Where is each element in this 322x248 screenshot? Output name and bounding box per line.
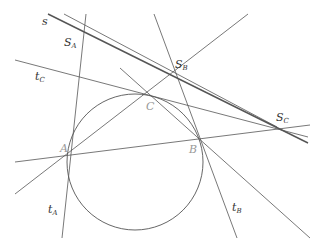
- label-A: A: [59, 142, 68, 155]
- label-s: s: [42, 15, 48, 28]
- line-AC: [15, 14, 248, 194]
- label-SA: SA: [64, 36, 77, 50]
- label-B: B: [188, 143, 197, 156]
- tangent-tB: [154, 14, 237, 238]
- label-tA: tA: [48, 203, 57, 217]
- label-SB: SB: [175, 58, 188, 72]
- lines-group: [15, 14, 310, 238]
- line-sa-c: [64, 14, 277, 127]
- diagram-canvas: s SA SB SC tC tA tB A B C: [0, 0, 322, 248]
- tangent-tC: [15, 60, 308, 137]
- circumcircle: [67, 94, 203, 230]
- line-CB: [120, 68, 310, 238]
- label-tC: tC: [35, 70, 45, 84]
- geometry-svg: s SA SB SC tC tA tB A B C: [0, 0, 322, 248]
- label-C: C: [146, 100, 155, 113]
- label-SC: SC: [276, 111, 290, 125]
- label-tB: tB: [232, 201, 242, 215]
